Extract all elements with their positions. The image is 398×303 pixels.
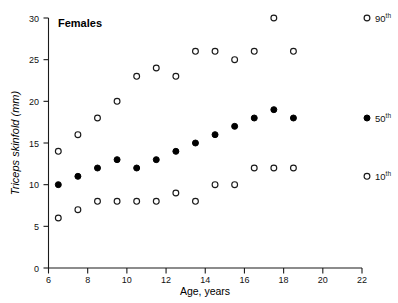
data-point-10th — [271, 165, 277, 171]
x-tick-label-14: 14 — [200, 275, 210, 285]
data-point-90th — [193, 48, 199, 54]
legend-label-10th: 10th — [375, 170, 391, 182]
legend-marker-10th — [364, 173, 370, 179]
data-point-50th — [114, 157, 120, 163]
data-point-50th — [192, 140, 198, 146]
data-point-10th — [251, 165, 257, 171]
data-point-10th — [291, 165, 297, 171]
y-axis-title: Triceps skinfold (mm) — [9, 91, 21, 196]
data-point-10th — [153, 198, 159, 204]
x-tick-label-18: 18 — [279, 275, 289, 285]
legend-label-50th: 50th — [375, 112, 391, 124]
data-point-50th — [212, 132, 218, 138]
data-point-50th — [290, 115, 296, 121]
data-point-10th — [232, 182, 238, 188]
chart-legend: 90th50th10th — [364, 12, 391, 182]
data-point-90th — [95, 115, 101, 121]
y-axis-ticks: 051015202530 — [29, 14, 49, 274]
x-tick-label-8: 8 — [85, 275, 90, 285]
y-tick-label-10: 10 — [29, 180, 39, 190]
y-tick-label-30: 30 — [29, 14, 39, 24]
data-point-10th — [95, 198, 101, 204]
data-point-10th — [55, 215, 61, 221]
data-point-50th — [75, 173, 81, 179]
data-point-90th — [173, 73, 179, 79]
data-point-50th — [134, 165, 140, 171]
data-point-90th — [291, 48, 297, 54]
data-point-90th — [251, 48, 257, 54]
data-point-90th — [212, 48, 218, 54]
data-point-90th — [75, 132, 81, 138]
data-point-90th — [271, 15, 277, 21]
data-point-90th — [114, 98, 120, 104]
data-point-10th — [193, 198, 199, 204]
data-point-50th — [232, 123, 238, 129]
data-point-50th — [251, 115, 257, 121]
x-tick-label-6: 6 — [46, 275, 51, 285]
y-tick-label-25: 25 — [29, 55, 39, 65]
x-tick-label-10: 10 — [122, 275, 132, 285]
legend-label-suffix: th — [386, 12, 392, 19]
data-point-50th — [173, 148, 179, 154]
x-tick-label-20: 20 — [318, 275, 328, 285]
series-90th-points — [55, 15, 296, 154]
data-point-10th — [75, 207, 81, 213]
data-point-90th — [153, 65, 159, 71]
legend-label-90th: 90th — [375, 12, 391, 24]
data-point-50th — [55, 182, 61, 188]
data-point-10th — [134, 198, 140, 204]
data-point-90th — [134, 73, 140, 79]
y-tick-label-0: 0 — [34, 264, 39, 274]
data-point-10th — [173, 190, 179, 196]
legend-label-suffix: th — [386, 170, 392, 177]
legend-marker-90th — [364, 15, 370, 21]
data-point-90th — [232, 57, 238, 63]
chart-axes — [49, 18, 363, 268]
data-point-50th — [153, 157, 159, 163]
data-point-10th — [212, 182, 218, 188]
series-10th-points — [55, 165, 296, 221]
y-tick-label-20: 20 — [29, 97, 39, 107]
x-tick-label-12: 12 — [161, 275, 171, 285]
x-tick-label-22: 22 — [357, 275, 367, 285]
x-axis-ticks: 6810121416182022 — [46, 268, 367, 285]
x-axis-title: Age, years — [180, 285, 230, 297]
x-tick-label-16: 16 — [239, 275, 249, 285]
y-tick-label-15: 15 — [29, 139, 39, 149]
data-point-90th — [55, 148, 61, 154]
chart-figure: 051015202530 6810121416182022 Age, years… — [0, 0, 398, 303]
legend-marker-50th — [364, 115, 370, 121]
triceps-skinfold-scatter-chart: 051015202530 6810121416182022 Age, years… — [0, 0, 398, 303]
plot-title: Females — [58, 17, 102, 29]
data-point-50th — [271, 107, 277, 113]
y-tick-label-5: 5 — [34, 222, 39, 232]
data-point-50th — [94, 165, 100, 171]
series-50th-points — [55, 107, 296, 188]
data-point-10th — [114, 198, 120, 204]
legend-label-suffix: th — [386, 112, 392, 119]
